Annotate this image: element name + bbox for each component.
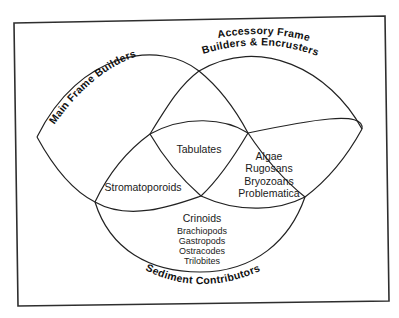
region-accessory-sediment: Algae Rugosans Bryozoans Problematica	[238, 150, 299, 199]
region-stromatoporoids: Stromatoporoids	[104, 181, 181, 193]
region-item: Gastropods	[179, 236, 226, 246]
region-item: Rugosans	[245, 162, 292, 174]
venn-diagram: Main Frame Builders Accessory Frame Buil…	[0, 0, 399, 318]
region-item: Problematica	[238, 187, 299, 199]
region-tabulates: Tabulates	[177, 143, 222, 155]
region-item: Algae	[256, 150, 283, 162]
region-item: Bryozoans	[244, 175, 294, 187]
region-item-crinoids: Crinoids	[183, 212, 222, 224]
region-sediment-only: Crinoids Brachiopods Gastropods Ostracod…	[177, 212, 228, 266]
region-item: Ostracodes	[179, 246, 226, 256]
region-item: Trilobites	[184, 256, 221, 266]
accessory-lower-arc	[305, 129, 362, 197]
label-main-frame-builders: Main Frame Builders	[46, 47, 137, 126]
region-item: Brachiopods	[177, 226, 228, 236]
sediment-upper-arc	[150, 118, 362, 134]
